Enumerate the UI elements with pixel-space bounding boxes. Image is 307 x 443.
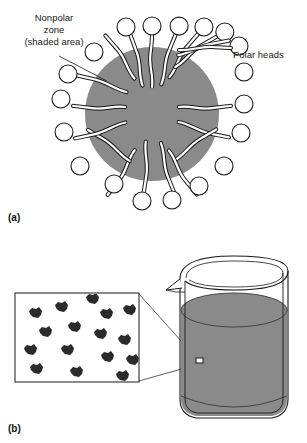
- polar-head: [143, 17, 161, 35]
- panel-a-letter: (a): [8, 212, 20, 223]
- micelle-core: [126, 88, 178, 140]
- figure-canvas: Nonpolar zone (shaded area) Polar heads …: [0, 0, 307, 443]
- beaker-liquid-surface: [181, 293, 287, 327]
- polar-head: [85, 43, 103, 61]
- polar-head: [232, 124, 250, 142]
- beaker-rim-inner: [186, 261, 283, 287]
- polar-head: [170, 17, 188, 35]
- magnified-region-marker: [196, 358, 203, 363]
- polar-head: [55, 123, 73, 141]
- polar-head: [190, 177, 208, 195]
- polar-head: [195, 18, 213, 36]
- polar-head: [216, 23, 234, 41]
- polar-heads-label: Polar heads: [233, 49, 284, 60]
- polar-head: [163, 191, 181, 209]
- nonpolar-zone-label-line-3: (shaded area): [24, 36, 83, 47]
- polar-head: [117, 18, 135, 36]
- beaker-pour-spout-lip: [166, 290, 185, 292]
- figure-root: Nonpolar zone (shaded area) Polar heads …: [0, 0, 307, 443]
- polar-head: [235, 63, 253, 81]
- nonpolar-zone-label-line-1: Nonpolar: [35, 12, 74, 23]
- polar-head: [59, 65, 77, 83]
- panel-b-group: (b): [8, 256, 288, 434]
- polar-head: [133, 192, 151, 210]
- polar-head: [215, 157, 233, 175]
- polar-head: [235, 95, 253, 113]
- polar-head: [105, 175, 123, 193]
- nonpolar-zone-label-line-2: zone: [44, 24, 65, 35]
- polar-head: [52, 90, 70, 108]
- beaker-pour-spout: [166, 279, 182, 290]
- panel-a-group: Nonpolar zone (shaded area) Polar heads …: [8, 12, 284, 223]
- polar-head: [71, 157, 89, 175]
- panel-b-letter: (b): [8, 423, 21, 434]
